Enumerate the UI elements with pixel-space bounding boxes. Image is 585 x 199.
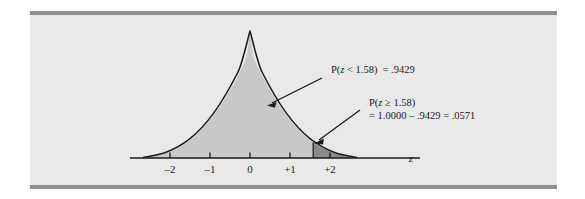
- tail-probability-annotation-line1: P(z ≥ 1.58): [369, 97, 416, 109]
- tick-label-minus1: –1: [204, 163, 216, 175]
- tick-label-minus2: –2: [164, 163, 176, 175]
- body-annotation-arrow: [267, 78, 322, 108]
- normal-distribution-chart: –2 –1 0 +1 +2 z P(z < 1.58)= .9429 P(z ≥…: [0, 0, 585, 199]
- tail-annot-relation: ≥ 1.58: [382, 97, 411, 108]
- body-annot-relation: < 1.58: [344, 64, 374, 75]
- tick-label-plus1: +1: [284, 163, 296, 175]
- body-annot-close: ): [374, 64, 378, 76]
- tick-label-plus2: +2: [324, 163, 336, 175]
- body-annot-equals: = .9429: [382, 64, 414, 75]
- tick-label-zero: 0: [247, 163, 253, 175]
- tail-probability-annotation-line2: = 1.0000 – .9429 = .0571: [369, 110, 475, 121]
- figure-root: –2 –1 0 +1 +2 z P(z < 1.58)= .9429 P(z ≥…: [0, 0, 585, 199]
- body-probability-annotation: P(z < 1.58)= .9429: [331, 64, 415, 76]
- tail-annot-close: ): [412, 97, 416, 109]
- axis-label-z: z: [408, 152, 414, 164]
- tail-annotation-arrow: [314, 110, 360, 145]
